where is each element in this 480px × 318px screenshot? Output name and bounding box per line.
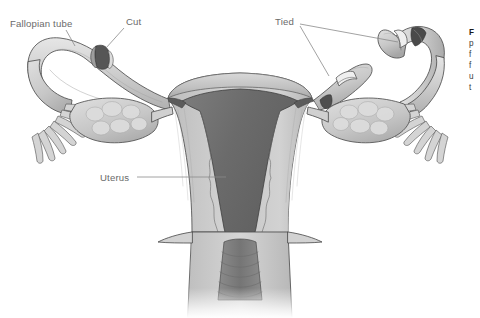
leader-cut xyxy=(106,28,124,48)
label-fallopian-tube: Fallopian tube xyxy=(10,18,72,29)
left-fallopian-tube xyxy=(28,38,173,164)
caption-line-5: u xyxy=(469,72,474,81)
caption-line-2: p xyxy=(469,39,474,48)
label-uterus: Uterus xyxy=(100,172,129,183)
tied-stump-medial-right xyxy=(378,26,444,110)
figure-caption: F p f f u t xyxy=(469,28,474,92)
illustration-canvas: Fallopian tube Cut Tied Uterus F p f f u… xyxy=(0,0,480,318)
caption-line-1: F xyxy=(469,28,474,37)
caption-line-6: t xyxy=(469,83,472,92)
caption-line-4: f xyxy=(469,61,472,70)
cut-site-band xyxy=(91,45,114,69)
label-cut: Cut xyxy=(126,16,142,27)
caption-line-3: f xyxy=(469,50,472,59)
right-fallopian-tube xyxy=(307,26,448,163)
anatomy-diagram: Fallopian tube Cut Tied Uterus F p f f u… xyxy=(0,0,480,318)
cervix xyxy=(158,232,322,318)
label-tied: Tied xyxy=(275,16,294,27)
leader-tied-medial xyxy=(300,26,329,76)
